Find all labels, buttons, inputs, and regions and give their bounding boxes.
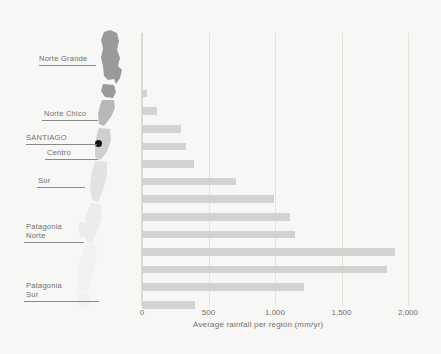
bar-13: [142, 266, 387, 274]
chart-x-axis-title: Average rainfall per region (mm/yr): [193, 320, 323, 329]
x-tick-500: 500: [189, 308, 229, 317]
bar-9: [142, 195, 274, 203]
bar-10: [142, 213, 290, 221]
x-tick-2000: 2,000: [388, 308, 428, 317]
x-tick-1000: 1,000: [255, 308, 295, 317]
figure-root: Norte Grande Norte Chico SANTIAGO Centro…: [0, 0, 441, 354]
bar-12: [142, 248, 395, 256]
bar-7: [142, 160, 194, 168]
bar-3: [142, 90, 147, 98]
x-tick-1500: 1,500: [322, 308, 362, 317]
bar-4: [142, 107, 157, 115]
bar-11: [142, 231, 295, 239]
bar-14: [142, 283, 304, 291]
gridline-2000: [408, 33, 409, 306]
x-tick-0: 0: [122, 308, 162, 317]
bar-6: [142, 143, 186, 151]
bar-5: [142, 125, 181, 133]
rainfall-bar-chart: 05001,0001,5002,000 Average rainfall per…: [0, 0, 441, 354]
bar-8: [142, 178, 236, 186]
